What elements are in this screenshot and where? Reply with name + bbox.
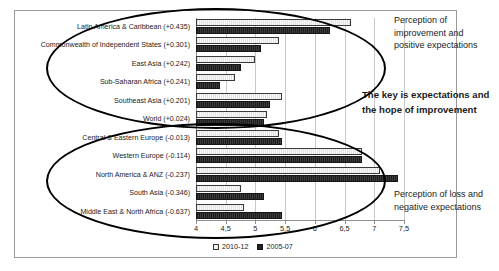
legend-label-2005-07: 2005-07	[266, 242, 292, 251]
x-axis-tick-label: 6,5	[339, 224, 349, 233]
annotation-negative: Perception of loss and negative expectat…	[394, 188, 495, 213]
legend-item-2005-07: 2005-07	[257, 242, 292, 251]
legend-item-2010-12: 2010-12	[213, 242, 248, 251]
legend-swatch-dark	[257, 244, 263, 250]
chart-figure: Latin America & Caribbean (+0.435)Common…	[0, 0, 499, 271]
ellipse-positive-group	[46, 8, 386, 129]
x-axis-tick-label: 7	[372, 224, 376, 233]
x-axis-tick-label: 7,5	[399, 224, 409, 233]
legend-label-2010-12: 2010-12	[222, 242, 248, 251]
ellipse-negative-group	[46, 123, 386, 239]
annotation-positive: Perception of improvement and positive e…	[394, 14, 495, 52]
annotation-key-message: The key is expectations and the hope of …	[362, 88, 499, 117]
legend-swatch-light	[213, 244, 219, 250]
chart-legend: 2010-12 2005-07	[213, 242, 293, 251]
